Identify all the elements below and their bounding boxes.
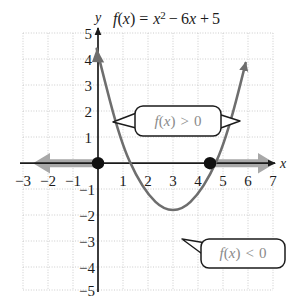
y-tick--2: −2: [79, 208, 95, 224]
x-tick-4: 4: [194, 173, 202, 189]
eq-x2-base: x: [152, 10, 160, 27]
eq-var2: x: [188, 10, 196, 27]
y-tick--3: −3: [79, 234, 95, 250]
y-tick-1: 1: [85, 130, 93, 146]
callout-positive-operator: >: [180, 113, 188, 129]
root-dot-x1: [92, 157, 104, 169]
y-tick-5: 5: [85, 26, 93, 42]
callout-negative-box: [201, 239, 285, 268]
callout-positive-value: 0: [194, 113, 202, 129]
callout-negative-operator: <: [245, 245, 253, 261]
eq-coefficient: 6: [181, 10, 189, 27]
x-tick--3: −3: [15, 173, 31, 189]
x-tick-6: 6: [244, 173, 252, 189]
y-tick--1: −1: [79, 182, 95, 198]
x-tick-2: 2: [144, 173, 152, 189]
eq-x2-exponent: 2: [160, 9, 166, 21]
callout-positive-paren-close: ): [170, 113, 175, 130]
graph-figure: −3 −2 −1 1 2 3 4 5 6 7 5 4 3 2 1 −1 −2 −…: [0, 0, 295, 302]
x-tick-5: 5: [219, 173, 227, 189]
y-tick--5: −5: [79, 283, 95, 299]
parabola-graph-svg: −3 −2 −1 1 2 3 4 5 6 7 5 4 3 2 1 −1 −2 −…: [0, 0, 295, 302]
eq-paren-close: ): [130, 10, 135, 28]
x-tick-7: 7: [269, 173, 277, 189]
x-axis-label: x: [279, 156, 287, 171]
root-dot-x5: [204, 157, 216, 169]
x-tick-3: 3: [169, 173, 177, 189]
y-tick-4: 4: [85, 52, 93, 68]
eq-equals: =: [139, 10, 148, 27]
callout-negative-paren-close: ): [235, 245, 240, 262]
eq-var1: x: [122, 10, 130, 27]
eq-minus: −: [169, 10, 178, 27]
eq-constant: 5: [212, 10, 220, 27]
x-tick-1: 1: [119, 173, 127, 189]
callout-positive-box: [135, 106, 221, 136]
y-axis-label: y: [93, 10, 102, 25]
callout-negative-value: 0: [259, 245, 267, 261]
y-tick--4: −4: [79, 260, 95, 276]
x-tick--2: −2: [40, 173, 56, 189]
y-tick-2: 2: [85, 104, 93, 120]
y-tick-3: 3: [85, 78, 93, 94]
eq-plus: +: [200, 10, 209, 27]
